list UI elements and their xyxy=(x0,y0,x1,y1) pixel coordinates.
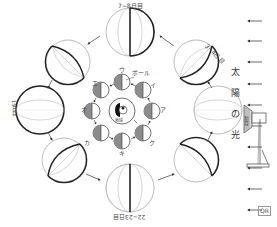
label-day-7-8: 7~8日目 xyxy=(118,3,143,9)
label-day-15: 15日目 xyxy=(11,100,16,116)
lamp-icon xyxy=(244,105,269,167)
label-ka: カ xyxy=(84,140,90,146)
label-day-22-23: 22~23日目 xyxy=(113,214,145,220)
label-ball: ボール xyxy=(132,70,150,76)
outer-moon-bottom xyxy=(106,164,154,212)
label-ki: キ xyxy=(119,150,125,156)
inner-moon-ka xyxy=(93,125,109,141)
moon-phase-diagram: 7~8日目 3~4日目 15日目 新月 22~23日目 ウ ボール イ ア ク … xyxy=(0,0,277,227)
label-ku: ク xyxy=(149,140,155,146)
inner-moon-ki xyxy=(114,133,130,149)
inner-moon-u xyxy=(114,74,130,90)
label-earth: 地球 xyxy=(115,119,123,123)
sunlight-char-4: 光 xyxy=(231,131,240,140)
sunlight-char-1: 太 xyxy=(231,68,240,77)
outer-moon-top xyxy=(106,8,154,56)
qr-code-badge[interactable]: QR xyxy=(258,206,271,216)
outer-moon-bottom-left xyxy=(42,138,87,183)
inner-moon-a xyxy=(144,103,160,119)
outer-moon-top-left xyxy=(45,40,90,85)
sunlight-char-2: 陽 xyxy=(231,89,240,98)
label-u: ウ xyxy=(119,67,125,73)
label-new-moon: 新月 xyxy=(243,116,248,126)
center-earth xyxy=(109,98,137,124)
inner-moon-i xyxy=(135,82,151,98)
label-i: イ xyxy=(150,82,156,88)
label-e: エ xyxy=(92,80,98,86)
label-o: オ xyxy=(81,107,87,113)
outer-moon-left xyxy=(16,86,64,134)
outer-moon-bottom-right xyxy=(174,137,219,182)
sunlight-char-3: の xyxy=(231,110,240,119)
label-a: ア xyxy=(160,107,166,113)
